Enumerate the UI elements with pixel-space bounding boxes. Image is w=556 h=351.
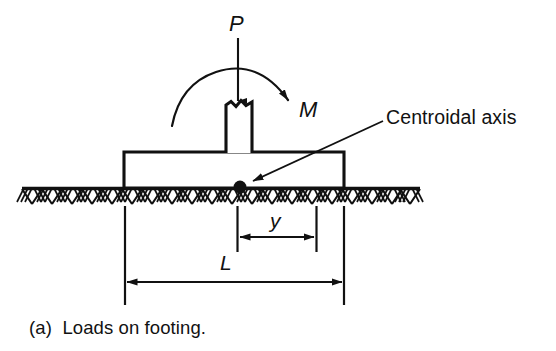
column-stub xyxy=(226,101,252,154)
footing-block xyxy=(124,152,344,188)
centroidal-axis-label: Centroidal axis xyxy=(386,108,516,128)
eccentricity-label: y xyxy=(270,210,281,231)
moment-label: M xyxy=(299,99,317,121)
figure-caption: (a) Loads on footing. xyxy=(29,319,206,338)
soil-hatching xyxy=(17,189,423,204)
figure-container: P M y L Centroidal axis (a) Loads on foo… xyxy=(0,0,556,351)
axial-load-label: P xyxy=(229,13,244,35)
centroid-dot xyxy=(234,181,247,194)
footing-loads-diagram xyxy=(0,0,556,351)
footing-length-label: L xyxy=(220,252,232,273)
dimension-L xyxy=(125,206,344,305)
